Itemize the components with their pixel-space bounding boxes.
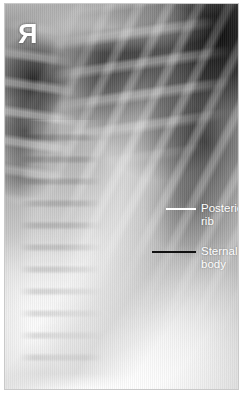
annotation-posterior-rib: Posterior rib bbox=[166, 202, 238, 227]
film-frame: R Posterior rib Sternal body bbox=[4, 3, 239, 390]
radiograph-figure: R Posterior rib Sternal body bbox=[0, 0, 243, 397]
leader-line-posterior-rib bbox=[166, 208, 196, 210]
vertebral-column-layer bbox=[19, 120, 103, 366]
xray-image: R Posterior rib Sternal body bbox=[5, 4, 238, 389]
leader-line-sternal-body bbox=[152, 251, 196, 253]
annotation-sternal-body: Sternal body bbox=[152, 245, 237, 270]
annotation-label-sternal-body: Sternal body bbox=[201, 245, 237, 270]
annotation-label-posterior-rib: Posterior rib bbox=[201, 202, 238, 227]
laterality-marker-r: R bbox=[18, 21, 38, 48]
